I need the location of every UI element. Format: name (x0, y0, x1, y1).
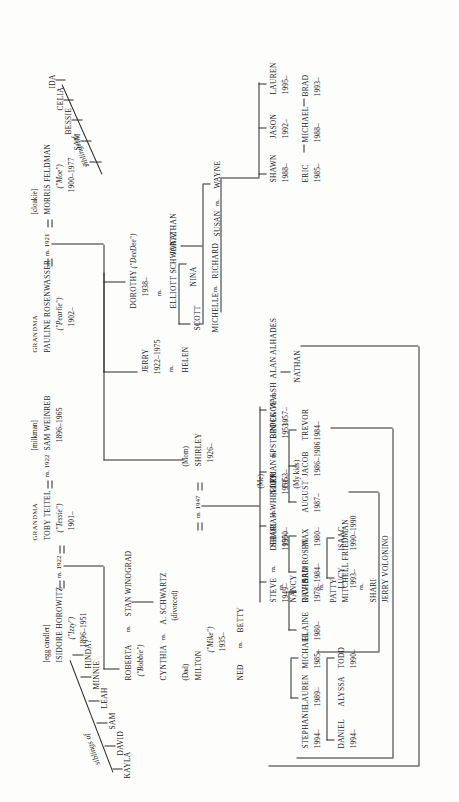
dorothy-name: DOROTHY (128, 269, 137, 308)
stephanie-years: 1994– (312, 729, 321, 748)
marriage-shari: m. (268, 509, 276, 516)
steve-stem (259, 581, 266, 582)
isidore-name: ISIDORE HOROWITZ (54, 586, 63, 662)
nathan-name: NATHAN (292, 350, 301, 382)
isidore-nickname: ("Izzy") (66, 616, 75, 639)
scott-stem (178, 323, 190, 324)
lauren-m-name: LAUREN (268, 62, 277, 94)
sibling-unknown-f: ? (81, 162, 90, 166)
marriage-peggy: m. (268, 391, 276, 398)
lauren-m-years: 1995– (280, 75, 289, 94)
brad-name: BRAD (300, 74, 309, 96)
outer-route-right (300, 345, 418, 346)
shawn-stem (258, 173, 266, 174)
shirley-name: SHIRLEY (193, 432, 202, 466)
sam-weinreb-occupation: [milkman] (30, 420, 38, 450)
cynthia-divorce-note: (divorced) (170, 590, 178, 620)
morris-occupation: [cloakie] (30, 188, 38, 214)
jacob-name: JACOB (300, 451, 309, 476)
peggy-stem (259, 409, 266, 410)
marriage-line-isidore-bot (63, 580, 64, 588)
route-bottom-2-right (348, 491, 378, 492)
pauline-years: 1902– (66, 307, 75, 326)
marriage-line-sam-bot (51, 480, 52, 488)
trevor-name: TREVOR (300, 408, 309, 440)
shawn-years: 1988– (280, 163, 289, 182)
sam-weinreb-name: SAM WEINREB (42, 395, 51, 450)
shirley-role-mom: (Mom) (181, 446, 189, 466)
michelle-kids-bar (258, 82, 259, 178)
marriage-line-mp-bot (51, 219, 52, 227)
marriage-line-toby-top (59, 545, 60, 553)
roberta-nickname: ("Bobbie") (135, 644, 144, 676)
marriage-line-sam-top (47, 480, 48, 488)
dorothy-kids-bar (178, 264, 179, 324)
route-bottom-1-right (330, 427, 392, 428)
lucy-stem (326, 577, 334, 578)
august-stem (288, 501, 296, 502)
sibling-bessie: BESSIE (63, 107, 72, 134)
isidore-years: 1896–1951 (78, 612, 87, 647)
cynthia-name: CYNTHIA (158, 644, 167, 680)
descent-roberta (131, 601, 153, 602)
marriage-susan: m. (212, 199, 220, 206)
marriage-line-pm-bot (51, 258, 52, 266)
michelle-stem (194, 323, 202, 324)
shawn-name: SHAWN (268, 154, 277, 182)
sibling-tick-unknown-f (89, 161, 101, 162)
sibling-tick-hinda (72, 654, 83, 655)
jerry-kids-bar (202, 184, 203, 324)
toby-title: GRANDMA (30, 502, 37, 540)
shirley-stem (103, 459, 183, 460)
daniel-stem (326, 739, 334, 740)
genealogy-canvas: siblings of KAYLA DAVID SAM LEAH MINNIE … (0, 0, 459, 802)
michelle-kids-lead (220, 178, 221, 312)
trevor-years: 1984– (312, 421, 321, 440)
marriage-line-sm2-bot (201, 482, 202, 490)
jacob-stem (288, 465, 296, 466)
brad-years: 1993– (312, 77, 321, 96)
jerry-spouse: HELEN (180, 346, 189, 372)
jonathan-stem (180, 245, 202, 246)
lauren-r-years: 1989– (312, 687, 321, 706)
susan-stem (202, 183, 210, 184)
descent-horowitz-bar (103, 566, 104, 669)
sibling-tick-kayla (112, 768, 122, 769)
susan-kids-connector2 (303, 98, 304, 106)
steve-kids-bar (288, 592, 289, 630)
scott-name: SCOTT (192, 305, 201, 330)
marriage-line-ms-bot (201, 522, 202, 530)
marriage-steve: m. (268, 565, 276, 572)
isidore-occupation: [egg candler] (42, 624, 50, 662)
august-years: 1987– (312, 493, 321, 512)
shariw-kids-bar (326, 658, 327, 740)
sibling-tick-sam (96, 722, 107, 723)
toby-years: 1901– (66, 511, 75, 530)
jason-name: JASON (268, 113, 277, 138)
roberta-spouse: STAN WINOGRAD (123, 550, 132, 616)
elaine-name: ELAINE (300, 611, 309, 640)
marriage-line-pm-top (47, 258, 48, 266)
pauline-name: PAULINE ROSENWASSER (42, 259, 51, 352)
steve-name: STEVE (268, 577, 277, 602)
milton-role-dad: (Dad) (181, 663, 189, 680)
marriage-joy: m. (268, 451, 276, 458)
max-stem (288, 535, 296, 536)
cynthia-spouse: A. SCHWARTZ (158, 572, 167, 624)
david-w-years: 1978– (312, 583, 321, 602)
sibling-tick-celia (63, 99, 73, 100)
marriage-milton-shirley: m. 1947 (193, 495, 201, 518)
descent-milton-shirley (201, 505, 259, 506)
peggy-years: 1957– (280, 407, 289, 426)
jason-years: 1992– (280, 119, 289, 138)
sibling-tick-leah (88, 700, 99, 701)
route-bottom-2 (378, 492, 379, 652)
sibling-sam: SAM (107, 712, 116, 729)
marriage-line-sm2-top (197, 482, 198, 490)
lucy-years: 1993– (348, 569, 357, 588)
sibling-tick-david (104, 745, 115, 746)
roberta-name: ROBERTA (123, 644, 132, 680)
isaac-years: 1990–1990 (348, 515, 357, 550)
outer-route-left (268, 765, 418, 766)
morris-nickname: ("Moe") (54, 164, 63, 188)
